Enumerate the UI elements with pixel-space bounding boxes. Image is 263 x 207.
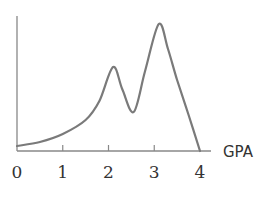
x-axis-tick-labels: 01234: [12, 162, 206, 182]
gpa-density-chart: 01234 GPA: [0, 0, 263, 207]
x-tick-label: 4: [195, 162, 206, 182]
density-curve: [17, 24, 200, 151]
x-tick-label: 0: [12, 162, 23, 182]
x-axis-label: GPA: [223, 143, 254, 161]
x-tick-label: 1: [57, 162, 68, 182]
x-tick-label: 3: [149, 162, 160, 182]
x-axis-ticks: [63, 145, 155, 151]
x-tick-label: 2: [103, 162, 114, 182]
